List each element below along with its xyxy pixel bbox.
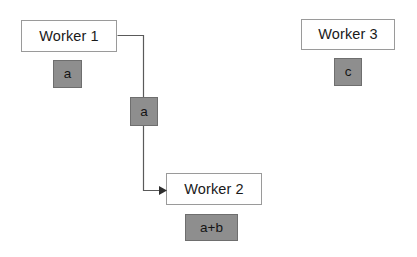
arrowhead-icon xyxy=(159,186,167,195)
diagram-canvas: Worker 1 a a Worker 2 a+b Worker 3 c xyxy=(0,0,417,257)
edge-layer xyxy=(0,0,417,257)
message-a-label: a xyxy=(140,105,148,119)
message-a-in-transit: a xyxy=(130,97,158,126)
